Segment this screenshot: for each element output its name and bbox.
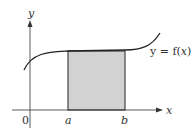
origin-label: 0	[22, 114, 29, 127]
a-label: a	[65, 114, 72, 127]
b-label: b	[121, 114, 128, 127]
y-axis-arrow-icon	[28, 20, 33, 27]
shaded-region	[68, 51, 125, 110]
curve-label: y = f(x)	[149, 45, 191, 58]
x-axis-arrow-icon	[156, 108, 163, 113]
area-under-curve-diagram: x y 0 a b y = f(x)	[0, 0, 195, 138]
y-axis-label: y	[27, 7, 35, 20]
x-axis-label: x	[166, 104, 173, 117]
